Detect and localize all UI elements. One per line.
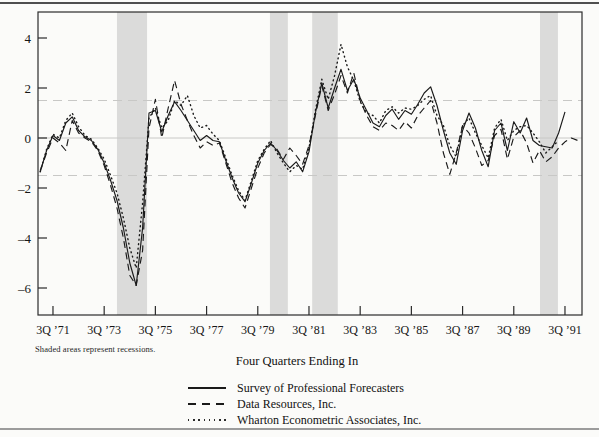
x-tick-label: 3Q ’89 bbox=[497, 323, 531, 337]
legend-item-wharton: Wharton Econometric Associates, Inc. bbox=[188, 412, 421, 428]
legend-label: Data Resources, Inc. bbox=[237, 397, 336, 412]
legend-item-dri: Data Resources, Inc. bbox=[188, 396, 421, 412]
recession-band bbox=[540, 12, 558, 315]
x-tick-label: 3Q ’91 bbox=[548, 323, 582, 337]
recession-band bbox=[270, 12, 288, 315]
x-tick-label: 3Q ’71 bbox=[36, 323, 70, 337]
dashed-line-swatch bbox=[188, 403, 226, 405]
x-tick-label: 3Q ’81 bbox=[292, 323, 326, 337]
x-tick-label: 3Q ’87 bbox=[446, 323, 480, 337]
legend-label: Survey of Professional Forecasters bbox=[237, 381, 404, 396]
x-tick-label: 3Q ’79 bbox=[241, 323, 275, 337]
legend-label: Wharton Econometric Associates, Inc. bbox=[237, 413, 421, 428]
y-tick-label: 2 bbox=[25, 81, 32, 96]
y-tick-label: –2 bbox=[17, 181, 31, 196]
y-tick-label: 0 bbox=[25, 131, 32, 146]
solid-line-swatch bbox=[188, 387, 226, 389]
recession-note: Shaded areas represent recessions. bbox=[35, 344, 155, 354]
chart-page: 420–2–4–63Q ’713Q ’733Q ’753Q ’773Q ’793… bbox=[0, 0, 599, 437]
x-tick-label: 3Q ’77 bbox=[190, 323, 224, 337]
dotted-line-swatch bbox=[188, 419, 226, 421]
bottom-rule bbox=[0, 428, 599, 430]
chart-legend: Survey of Professional Forecasters Data … bbox=[188, 380, 421, 428]
x-tick-label: 3Q ’73 bbox=[87, 323, 121, 337]
y-tick-label: –4 bbox=[17, 231, 32, 246]
y-tick-label: 4 bbox=[25, 31, 32, 46]
forecast-error-line-chart: 420–2–4–63Q ’713Q ’733Q ’753Q ’773Q ’793… bbox=[0, 0, 599, 340]
legend-item-spf: Survey of Professional Forecasters bbox=[188, 380, 421, 396]
x-tick-label: 3Q ’75 bbox=[139, 323, 173, 337]
y-tick-label: –6 bbox=[17, 281, 32, 296]
xaxis-title: Four Quarters Ending In bbox=[177, 354, 417, 369]
recession-band bbox=[312, 12, 338, 315]
x-tick-label: 3Q ’85 bbox=[395, 323, 429, 337]
x-tick-label: 3Q ’83 bbox=[343, 323, 377, 337]
